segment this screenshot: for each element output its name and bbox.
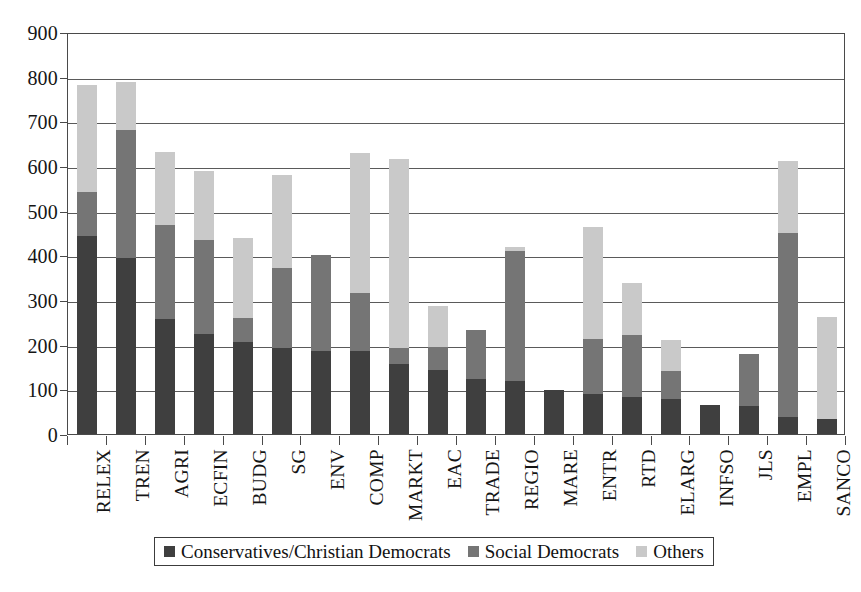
bar-segment[interactable] <box>116 258 136 434</box>
bar-segment[interactable] <box>661 371 681 399</box>
bar-segment[interactable] <box>583 339 603 393</box>
bar-segment[interactable] <box>350 293 370 351</box>
bar-group[interactable] <box>155 32 175 434</box>
bar-segment[interactable] <box>389 348 409 364</box>
bar-segment[interactable] <box>194 240 214 334</box>
bar-segment[interactable] <box>311 255 331 351</box>
bar-segment[interactable] <box>466 379 486 434</box>
bar-segment[interactable] <box>505 381 525 434</box>
bar-segment[interactable] <box>233 238 253 318</box>
bar-group[interactable] <box>233 32 253 434</box>
x-tick-label: RTD <box>639 449 659 488</box>
bar-group[interactable] <box>350 32 370 434</box>
bar-segment[interactable] <box>739 406 759 434</box>
bar-group[interactable] <box>817 32 837 434</box>
x-tick-mark <box>184 436 185 445</box>
bar-segment[interactable] <box>233 342 253 434</box>
legend-entry[interactable]: Social Democrats <box>468 542 620 561</box>
gridline <box>68 123 844 124</box>
bar-segment[interactable] <box>272 268 292 348</box>
bar-segment[interactable] <box>583 227 603 339</box>
x-tick-mark <box>417 436 418 445</box>
bar-segment[interactable] <box>77 192 97 236</box>
bar-group[interactable] <box>428 32 448 434</box>
gridline <box>68 302 844 303</box>
bar-segment[interactable] <box>466 330 486 379</box>
x-tick-label: EMPL <box>795 449 815 502</box>
stacked-bar-chart: 9008007006005004003002001000 RELEXTRENAG… <box>0 0 861 592</box>
bar-segment[interactable] <box>428 347 448 370</box>
bar-segment[interactable] <box>194 334 214 434</box>
bar-segment[interactable] <box>428 370 448 434</box>
bar-group[interactable] <box>739 32 759 434</box>
x-tick-label: COMP <box>367 449 387 505</box>
bar-segment[interactable] <box>155 225 175 318</box>
x-tick-label: BUDG <box>250 449 270 505</box>
bar-segment[interactable] <box>389 364 409 434</box>
bar-segment[interactable] <box>116 130 136 258</box>
y-tick-label: 900 <box>0 23 58 43</box>
x-tick-label: INFSO <box>717 449 737 507</box>
x-tick-mark <box>689 436 690 445</box>
y-tick-label: 400 <box>0 246 58 266</box>
bar-segment[interactable] <box>350 153 370 294</box>
bar-segment[interactable] <box>77 236 97 434</box>
x-tick-mark <box>300 436 301 445</box>
bar-segment[interactable] <box>817 419 837 434</box>
bar-group[interactable] <box>466 32 486 434</box>
bar-segment[interactable] <box>505 247 525 251</box>
bar-group[interactable] <box>505 32 525 434</box>
bar-segment[interactable] <box>622 335 642 397</box>
legend-entry[interactable]: Conservatives/Christian Democrats <box>164 542 451 561</box>
bar-group[interactable] <box>622 32 642 434</box>
bar-segment[interactable] <box>505 251 525 381</box>
bar-group[interactable] <box>778 32 798 434</box>
bar-segment[interactable] <box>739 354 759 407</box>
bar-segment[interactable] <box>155 319 175 434</box>
bar-group[interactable] <box>77 32 97 434</box>
bar-group[interactable] <box>583 32 603 434</box>
bar-segment[interactable] <box>622 283 642 334</box>
bar-segment[interactable] <box>155 152 175 226</box>
bar-segment[interactable] <box>544 390 564 434</box>
x-tick-mark <box>339 436 340 445</box>
x-tick-mark <box>728 436 729 445</box>
x-tick-mark <box>534 436 535 445</box>
bar-group[interactable] <box>700 32 720 434</box>
x-tick-label: ENV <box>328 449 348 490</box>
bar-segment[interactable] <box>233 318 253 342</box>
bar-segment[interactable] <box>778 233 798 417</box>
x-tick-label: AGRI <box>172 449 192 498</box>
bar-segment[interactable] <box>389 159 409 347</box>
bar-segment[interactable] <box>350 351 370 434</box>
bar-group[interactable] <box>661 32 681 434</box>
x-tick-label: ENTR <box>600 449 620 501</box>
bar-segment[interactable] <box>311 351 331 434</box>
bar-group[interactable] <box>272 32 292 434</box>
bar-segment[interactable] <box>778 161 798 233</box>
legend-entry[interactable]: Others <box>636 542 704 561</box>
bar-group[interactable] <box>116 32 136 434</box>
x-tick-mark <box>845 436 846 445</box>
bar-segment[interactable] <box>116 82 136 130</box>
bar-segment[interactable] <box>272 175 292 268</box>
bar-segment[interactable] <box>778 417 798 434</box>
x-tick-mark <box>573 436 574 445</box>
bar-segment[interactable] <box>583 394 603 434</box>
bar-segment[interactable] <box>194 171 214 240</box>
gridline <box>68 257 844 258</box>
bar-group[interactable] <box>544 32 564 434</box>
bar-segment[interactable] <box>622 397 642 434</box>
bar-group[interactable] <box>389 32 409 434</box>
x-tick-label: RELEX <box>94 449 114 513</box>
bar-group[interactable] <box>311 32 331 434</box>
bar-segment[interactable] <box>700 405 720 434</box>
bar-segment[interactable] <box>272 348 292 434</box>
x-tick-mark <box>651 436 652 445</box>
bar-segment[interactable] <box>77 85 97 192</box>
bar-group[interactable] <box>194 32 214 434</box>
bar-segment[interactable] <box>661 340 681 371</box>
bar-segment[interactable] <box>661 399 681 434</box>
bar-segment[interactable] <box>428 306 448 348</box>
bar-segment[interactable] <box>817 317 837 420</box>
